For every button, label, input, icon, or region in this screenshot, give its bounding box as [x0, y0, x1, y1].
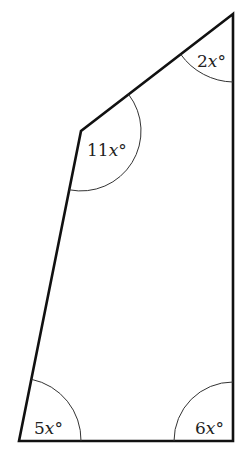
angle-label-upper-left: 11x° — [87, 140, 127, 160]
angle-label-bottom-right: 6x° — [195, 418, 224, 438]
quadrilateral-diagram: 2x° 11x° 5x° 6x° — [0, 0, 251, 453]
angle-label-top-right: 2x° — [197, 51, 226, 71]
angle-label-bottom-left: 5x° — [34, 418, 63, 438]
quadrilateral-outline — [19, 14, 233, 441]
